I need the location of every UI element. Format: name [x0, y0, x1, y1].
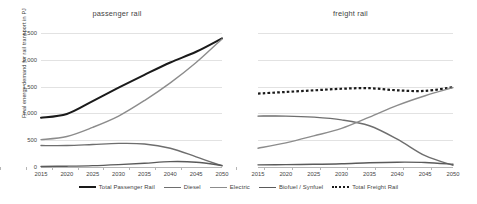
x-axis-tick-label: 2020 [279, 171, 292, 177]
panel-freight-rail: freight rail 201520202025203020352040204… [236, 0, 465, 180]
x-axis-tick-label: 2040 [164, 171, 177, 177]
y-axis-tick-label: 1,500 [0, 84, 37, 90]
series-line-total-passenger-rail [41, 38, 222, 117]
panel-passenger-rail: passenger rail 05001,0001,5002,0002,5002… [0, 0, 234, 180]
x-axis-tick-mark [320, 167, 321, 170]
x-axis-tick-label: 2015 [35, 171, 48, 177]
x-axis-tick-label: 2025 [86, 171, 99, 177]
legend-item-electric[interactable]: Electric [210, 184, 250, 190]
chart-figure: Final energy demand for rail transport i… [0, 0, 477, 204]
legend-item-total-freight-rail[interactable]: Total Freight Rail [332, 184, 398, 190]
legend-label: Total Passenger Rail [99, 184, 155, 190]
panel-title-freight-rail: freight rail [236, 9, 465, 18]
panel-title-passenger-rail: passenger rail [0, 9, 234, 18]
legend-swatch-icon [79, 186, 96, 188]
series-line-electric [258, 88, 453, 149]
series-line-total-freight-rail [258, 87, 453, 93]
legend-item-biofuel-synfuel[interactable]: Biofuel / Synfuel [259, 184, 323, 190]
y-axis-tick-label: 1,000 [0, 110, 37, 116]
x-axis-tick-label: 2045 [419, 171, 432, 177]
series-layer [258, 33, 453, 167]
legend-swatch-icon [332, 186, 349, 188]
x-axis-tick-mark [78, 167, 79, 170]
series-line-biofuel-synfuel [258, 162, 453, 165]
legend-swatch-icon [210, 187, 227, 188]
y-axis-tick-label: 500 [0, 137, 37, 143]
chart-legend: Total Passenger RailDieselElectricBiofue… [0, 184, 477, 190]
x-axis-tick-mark [264, 167, 265, 170]
x-axis-tick-label: 2035 [363, 171, 376, 177]
x-axis-tick-mark [181, 167, 182, 170]
x-axis-tick-mark [103, 167, 104, 170]
x-axis-tick-label: 2050 [447, 171, 460, 177]
x-axis-tick-label: 2035 [138, 171, 151, 177]
x-axis-line [41, 167, 222, 168]
x-axis-tick-label: 2015 [252, 171, 265, 177]
x-axis-tick-mark [292, 167, 293, 170]
legend-swatch-icon [259, 187, 276, 188]
x-axis-line [258, 167, 453, 168]
x-axis-tick-mark [0, 167, 1, 170]
x-axis-tick-mark [347, 167, 348, 170]
legend-label: Biofuel / Synfuel [279, 184, 323, 190]
legend-swatch-icon [164, 187, 181, 188]
x-axis-tick-label: 2025 [307, 171, 320, 177]
x-axis-tick-label: 2020 [60, 171, 73, 177]
y-axis-tick-label: 2,000 [0, 57, 37, 63]
x-axis-tick-mark [236, 167, 237, 170]
series-layer [41, 33, 222, 167]
x-axis-tick-mark [155, 167, 156, 170]
plot-area-passenger-rail [41, 33, 222, 167]
series-line-electric [41, 39, 222, 140]
x-axis-tick-mark [26, 167, 27, 170]
x-axis-tick-mark [129, 167, 130, 170]
legend-label: Total Freight Rail [352, 184, 398, 190]
legend-label: Electric [230, 184, 250, 190]
legend-item-diesel[interactable]: Diesel [164, 184, 201, 190]
x-axis-tick-label: 2050 [216, 171, 229, 177]
x-axis-tick-mark [52, 167, 53, 170]
legend-item-total-passenger-rail[interactable]: Total Passenger Rail [79, 184, 155, 190]
legend-label: Diesel [184, 184, 201, 190]
x-axis-tick-label: 2040 [391, 171, 404, 177]
x-axis-tick-mark [431, 167, 432, 170]
x-axis-tick-label: 2030 [112, 171, 125, 177]
x-axis-tick-mark [375, 167, 376, 170]
plot-area-freight-rail [258, 33, 453, 167]
y-axis-tick-label: 2,500 [0, 30, 37, 36]
x-axis-tick-label: 2030 [335, 171, 348, 177]
y-axis-tick-label: 0 [0, 164, 37, 170]
series-line-biofuel-synfuel [41, 162, 222, 167]
x-axis-tick-mark [403, 167, 404, 170]
x-axis-tick-label: 2045 [190, 171, 203, 177]
